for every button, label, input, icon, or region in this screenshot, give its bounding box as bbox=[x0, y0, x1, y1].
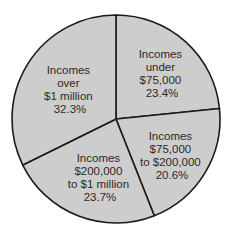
pie-chart: Incomes under $75,000 23.4% Incomes $75,… bbox=[0, 0, 228, 235]
